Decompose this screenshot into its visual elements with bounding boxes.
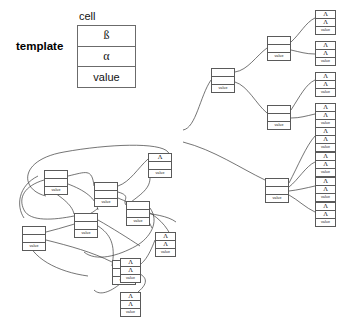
tree-leaf-5: Λ Λ value (315, 127, 336, 152)
cluster-node-4: value (126, 201, 150, 226)
node-row-value: value (127, 218, 149, 225)
node-row-mid (23, 235, 45, 243)
node-row-value: value (268, 122, 290, 129)
node-row-mid (75, 222, 97, 230)
lambda-icon: Λ (316, 136, 335, 144)
lambda-icon: Λ (149, 154, 171, 162)
node-row-value: value (316, 169, 335, 176)
node-row-top (45, 171, 67, 179)
node-row-top (127, 202, 149, 210)
lambda-icon: Λ (316, 153, 335, 161)
cluster-node-1: value (44, 170, 68, 195)
node-row-value: value (75, 230, 97, 237)
node-row-value: value (316, 58, 335, 65)
template-row-beta: ß (78, 26, 135, 47)
tree-node-internal-c: value (265, 178, 289, 203)
node-row-value: value (45, 187, 67, 194)
tree-node-root: value (211, 68, 235, 93)
node-row-value: value (23, 243, 45, 250)
cluster-node-2: value (94, 182, 118, 207)
node-row-value: value (268, 53, 290, 60)
diagram-canvas: template cell ß α value value value valu… (0, 0, 352, 326)
node-row-value: value (316, 219, 335, 226)
template-row-value: value (78, 67, 135, 87)
lambda-icon: Λ (316, 112, 335, 120)
lambda-icon: Λ (316, 11, 335, 19)
node-row-top (268, 37, 290, 45)
node-row-mid (212, 77, 234, 85)
lambda-icon: Λ (316, 178, 335, 186)
node-row-top (268, 106, 290, 114)
lambda-icon: Λ (316, 42, 335, 50)
tree-node-internal-b: value (267, 105, 291, 130)
node-row-value: value (149, 170, 171, 177)
node-row-top (23, 227, 45, 235)
lambda-icon: Λ (316, 186, 335, 194)
node-row-mid (149, 162, 171, 170)
node-row-value: value (316, 194, 335, 201)
cluster-node-5: value (22, 226, 46, 251)
lambda-icon: Λ (316, 73, 335, 81)
cluster-leaf-2: Λ Λ value (120, 258, 141, 283)
tree-leaf-7: Λ Λ value (315, 177, 336, 202)
node-row-mid (266, 187, 288, 195)
node-row-top (266, 179, 288, 187)
node-row-value: value (156, 249, 175, 256)
node-row-mid (268, 45, 290, 53)
lambda-icon: Λ (121, 267, 140, 275)
tree-leaf-6: Λ Λ value (315, 152, 336, 177)
node-row-value: value (316, 120, 335, 127)
node-row-value: value (316, 89, 335, 96)
lambda-icon: Λ (316, 128, 335, 136)
lambda-icon: Λ (316, 19, 335, 27)
lambda-icon: Λ (121, 259, 140, 267)
node-row-value: value (212, 85, 234, 92)
node-row-mid (268, 114, 290, 122)
node-row-value: value (316, 27, 335, 34)
node-row-mid (127, 210, 149, 218)
template-label: template (16, 40, 63, 52)
lambda-icon: Λ (316, 50, 335, 58)
lambda-icon: Λ (156, 241, 175, 249)
tree-leaf-4: Λ Λ value (315, 103, 336, 128)
template-row-alpha: α (78, 47, 135, 68)
lambda-icon: Λ (316, 203, 335, 211)
lambda-icon: Λ (156, 233, 175, 241)
node-row-value: value (95, 199, 117, 206)
cell-label: cell (79, 10, 96, 22)
lambda-icon: Λ (316, 104, 335, 112)
cluster-node-6: value (74, 213, 98, 238)
tree-leaf-2: Λ Λ value (315, 41, 336, 66)
node-row-top (212, 69, 234, 77)
lambda-icon: Λ (121, 301, 140, 309)
tree-leaf-1: Λ Λ value (315, 10, 336, 35)
cluster-leaf-3: Λ Λ value (120, 292, 141, 317)
node-row-value: value (316, 144, 335, 151)
node-row-value: value (121, 275, 140, 282)
node-row-top (95, 183, 117, 191)
cluster-leaf-1: Λ Λ value (155, 232, 176, 257)
node-row-value: value (121, 309, 140, 316)
tree-leaf-8: Λ Λ value (315, 202, 336, 227)
tree-leaf-3: Λ Λ value (315, 72, 336, 97)
template-cell: ß α value (77, 25, 136, 88)
tree-node-internal-a: value (267, 36, 291, 61)
node-row-mid (45, 179, 67, 187)
cluster-node-3: Λ value (148, 153, 172, 178)
lambda-icon: Λ (316, 161, 335, 169)
node-row-value: value (266, 195, 288, 202)
lambda-icon: Λ (316, 81, 335, 89)
node-row-mid (95, 191, 117, 199)
node-row-top (75, 214, 97, 222)
lambda-icon: Λ (316, 211, 335, 219)
lambda-icon: Λ (121, 293, 140, 301)
